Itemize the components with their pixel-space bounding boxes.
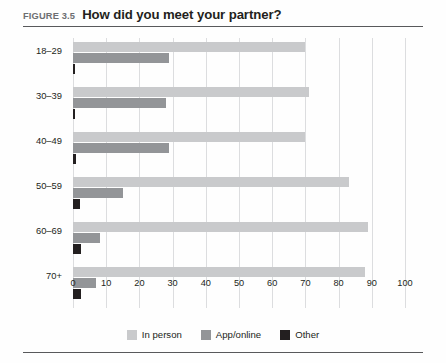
figure-panel: FIGURE 3.5 How did you meet your partner… — [0, 0, 446, 363]
bar — [73, 132, 305, 142]
plot-area: 18–2930–3940–4950–5960–6970+ — [73, 38, 405, 308]
bar — [73, 143, 169, 153]
gridline — [405, 38, 406, 308]
legend-label: Other — [295, 329, 319, 340]
bar — [73, 42, 305, 52]
bar — [73, 109, 75, 119]
x-axis-tick-label: 30 — [167, 278, 177, 288]
x-axis-tick-label: 60 — [267, 278, 277, 288]
bar — [73, 98, 166, 108]
footer-divider — [23, 352, 423, 353]
y-axis-label: 30–39 — [36, 90, 62, 101]
y-axis-label: 50–59 — [36, 180, 62, 191]
bar — [73, 154, 76, 164]
x-axis-tick-label: 70 — [300, 278, 310, 288]
y-axis-label: 18–29 — [36, 45, 62, 56]
x-axis-tick-label: 80 — [333, 278, 343, 288]
x-axis-tick-label: 0 — [70, 278, 75, 288]
header-divider — [23, 26, 423, 27]
bar — [73, 87, 309, 97]
bar — [73, 267, 365, 277]
bar — [73, 53, 169, 63]
x-axis-tick-label: 90 — [367, 278, 377, 288]
legend-label: App/online — [216, 329, 261, 340]
legend-swatch-icon — [127, 330, 137, 340]
x-axis-tick-label: 50 — [234, 278, 244, 288]
x-axis-tick-label: 10 — [101, 278, 111, 288]
bar-group: 60–69 — [73, 218, 405, 263]
bar-group: 40–49 — [73, 128, 405, 173]
legend-item: App/online — [201, 329, 261, 340]
figure-number: FIGURE 3.5 — [23, 11, 75, 21]
legend-label: In person — [142, 329, 182, 340]
y-axis-label: 40–49 — [36, 135, 62, 146]
bar — [73, 233, 100, 243]
x-axis-tick-label: 100 — [397, 278, 412, 288]
legend-item: Other — [280, 329, 319, 340]
legend-swatch-icon — [201, 330, 211, 340]
y-axis-label: 70+ — [46, 270, 62, 281]
legend-swatch-icon — [280, 330, 290, 340]
bar — [73, 188, 123, 198]
figure-title: How did you meet your partner? — [82, 7, 281, 22]
legend-item: In person — [127, 329, 182, 340]
chart-legend: In personApp/onlineOther — [0, 329, 446, 340]
bar — [73, 222, 368, 232]
bar-group: 18–29 — [73, 38, 405, 83]
bar — [73, 199, 80, 209]
bar — [73, 64, 75, 74]
bar — [73, 177, 349, 187]
bar-group: 50–59 — [73, 173, 405, 218]
x-axis-tick-label: 20 — [134, 278, 144, 288]
x-axis-tick-label: 40 — [201, 278, 211, 288]
bar — [73, 244, 81, 254]
y-axis-label: 60–69 — [36, 225, 62, 236]
bar-group: 30–39 — [73, 83, 405, 128]
x-axis: 0102030405060708090100 — [73, 278, 405, 294]
